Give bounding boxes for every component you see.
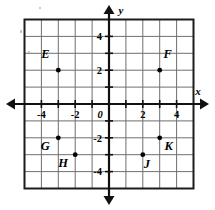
x-axis-arrow-right [200,99,209,110]
y-axis-arrow-down [104,196,115,205]
point-marker-h [73,152,78,157]
point-label-k: K [164,139,175,153]
coordinate-plane-figure: -4-22442-2-40 yx EFGHJK [0,0,215,210]
plotted-point: H [57,152,77,169]
origin-label: 0 [97,109,103,120]
y-tick-label: -4 [93,166,102,177]
y-axis-arrow-up [104,5,115,14]
point-marker-f [157,68,162,73]
point-label-j: J [143,157,151,171]
y-axis-label: y [117,4,124,16]
scan-speck [28,51,30,53]
x-axis-label: x [194,85,201,97]
y-tick-label: 2 [97,65,102,76]
plotted-point: E [40,47,61,72]
x-tick-label: -2 [71,109,80,120]
x-tick-label: -4 [37,109,46,120]
point-label-f: F [163,47,173,61]
point-marker-k [157,135,162,140]
x-tick-label: 4 [174,109,180,120]
point-label-e: E [40,47,49,61]
x-tick-label: 2 [140,109,145,120]
point-marker-e [56,68,61,73]
axes [6,5,209,205]
scan-speck [39,7,41,9]
point-label-g: G [41,139,50,153]
y-tick-label: -2 [93,133,102,144]
plotted-points: EFGHJK [40,47,174,171]
y-tick-label: 4 [97,31,103,42]
x-axis-arrow-left [6,99,15,110]
axis-name-labels: yx [117,4,202,97]
coordinate-plane-svg: -4-22442-2-40 yx EFGHJK [0,0,215,210]
point-marker-g [56,135,61,140]
point-label-h: H [57,156,69,170]
scan-speck [20,30,22,33]
